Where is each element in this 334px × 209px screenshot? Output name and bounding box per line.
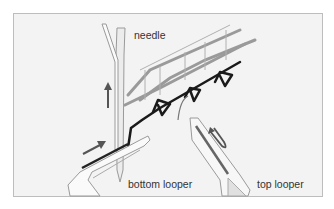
needle-label: needle xyxy=(134,29,166,41)
bottom-looper-label: bottom looper xyxy=(128,178,192,190)
arrow-bottom-looper-icon xyxy=(83,141,106,154)
top-looper-label: top looper xyxy=(257,178,304,190)
arrow-needle-up-icon xyxy=(104,82,112,108)
